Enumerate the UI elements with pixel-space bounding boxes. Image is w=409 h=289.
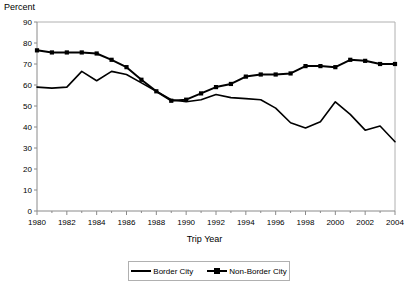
data-point-marker bbox=[333, 65, 337, 69]
x-tick-label: 1984 bbox=[88, 218, 106, 227]
data-point-marker bbox=[80, 50, 84, 54]
data-point-marker bbox=[169, 99, 173, 103]
x-tick-label: 1980 bbox=[28, 218, 46, 227]
legend-label: Border City bbox=[153, 267, 193, 276]
data-point-marker bbox=[154, 89, 158, 93]
x-tick-label: 1994 bbox=[237, 218, 255, 227]
x-tick-label: 1982 bbox=[58, 218, 76, 227]
data-point-marker bbox=[139, 78, 143, 82]
x-tick-label: 2002 bbox=[356, 218, 374, 227]
data-point-marker bbox=[229, 82, 233, 86]
x-tick-label: 2000 bbox=[326, 218, 344, 227]
x-tick-label: 1988 bbox=[147, 218, 165, 227]
y-tick-label: 50 bbox=[23, 102, 32, 111]
data-point-marker bbox=[348, 58, 352, 62]
plot-area: 0102030405060708090198019821984198619881… bbox=[0, 0, 409, 250]
y-tick-label: 0 bbox=[28, 207, 33, 216]
data-point-marker bbox=[363, 59, 367, 63]
chart-legend: Border City Non-Border City bbox=[128, 261, 290, 281]
x-tick-label: 1992 bbox=[207, 218, 225, 227]
y-tick-label: 70 bbox=[23, 60, 32, 69]
x-axis-label: Trip Year bbox=[0, 234, 409, 244]
legend-item-non-border-city: Non-Border City bbox=[207, 267, 286, 276]
legend-line-marker-icon bbox=[207, 267, 227, 276]
data-point-marker bbox=[274, 72, 278, 76]
legend-label: Non-Border City bbox=[229, 267, 286, 276]
data-point-marker bbox=[214, 85, 218, 89]
legend-item-border-city: Border City bbox=[131, 267, 193, 276]
data-point-marker bbox=[288, 71, 292, 75]
data-point-marker bbox=[259, 72, 263, 76]
data-point-marker bbox=[244, 75, 248, 79]
series-line-non-border-city bbox=[37, 50, 395, 100]
series-line-border-city bbox=[37, 71, 395, 141]
data-point-marker bbox=[124, 65, 128, 69]
y-tick-label: 10 bbox=[23, 186, 32, 195]
x-tick-label: 1996 bbox=[267, 218, 285, 227]
data-point-marker bbox=[109, 58, 113, 62]
legend-line-icon bbox=[131, 267, 151, 276]
y-tick-label: 40 bbox=[23, 123, 32, 132]
y-tick-label: 80 bbox=[23, 39, 32, 48]
x-tick-label: 1986 bbox=[118, 218, 136, 227]
data-point-marker bbox=[303, 64, 307, 68]
data-point-marker bbox=[50, 50, 54, 54]
x-tick-label: 2004 bbox=[386, 218, 404, 227]
y-tick-label: 20 bbox=[23, 165, 32, 174]
data-point-marker bbox=[65, 50, 69, 54]
chart-figure: Percent 01020304050607080901980198219841… bbox=[0, 0, 409, 289]
data-point-marker bbox=[184, 98, 188, 102]
x-tick-label: 1998 bbox=[297, 218, 315, 227]
x-tick-label: 1990 bbox=[177, 218, 195, 227]
data-point-marker bbox=[95, 51, 99, 55]
data-point-marker bbox=[199, 91, 203, 95]
data-point-marker bbox=[318, 64, 322, 68]
y-tick-label: 30 bbox=[23, 144, 32, 153]
data-point-marker bbox=[35, 48, 39, 52]
data-point-marker bbox=[393, 62, 397, 66]
y-tick-label: 60 bbox=[23, 81, 32, 90]
data-point-marker bbox=[378, 62, 382, 66]
y-tick-label: 90 bbox=[23, 18, 32, 27]
